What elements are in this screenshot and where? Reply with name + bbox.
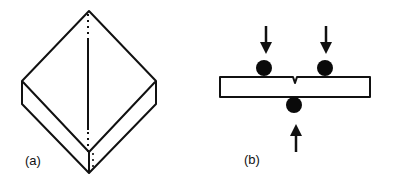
panel-a-slab xyxy=(22,11,156,173)
panel-b-bending xyxy=(220,26,370,152)
panel-b-label: (b) xyxy=(244,152,260,167)
slab-right-face xyxy=(89,81,156,173)
arrow-down-right-icon xyxy=(320,26,332,54)
notched-bar xyxy=(220,77,370,97)
arrow-up-icon xyxy=(290,124,302,152)
roller-top-right xyxy=(317,60,333,76)
figure-canvas xyxy=(0,0,393,185)
roller-top-left xyxy=(256,60,272,76)
panel-a-label: (a) xyxy=(25,153,41,168)
arrow-down-left-icon xyxy=(260,26,272,54)
roller-bottom xyxy=(286,97,302,113)
